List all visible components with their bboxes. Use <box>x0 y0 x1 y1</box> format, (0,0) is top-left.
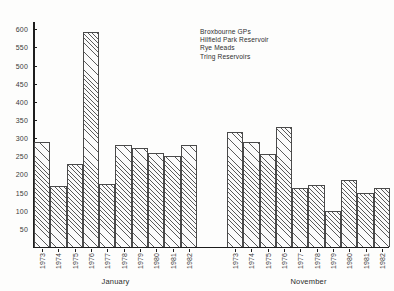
x-axis-tick-mark <box>268 249 269 252</box>
x-axis-tick-label: 1974 <box>248 253 255 269</box>
x-axis-tick-label: 1975 <box>71 253 78 269</box>
y-axis-tick-label: 50 <box>0 226 28 233</box>
bar <box>325 211 341 247</box>
panel-label-january: January <box>34 278 197 286</box>
legend-item-3: Tring Reservoirs <box>200 53 269 61</box>
x-axis-tick-label: 1982 <box>378 253 385 269</box>
bar <box>276 127 292 247</box>
x-axis-tick-label: 1976 <box>281 253 288 269</box>
y-axis-tick-label: 200 <box>0 171 28 178</box>
y-axis-tick-label: 150 <box>0 190 28 197</box>
legend-item-1: Hilfield Park Reservoir <box>200 36 269 44</box>
bar <box>99 184 115 248</box>
x-axis-line <box>33 247 389 248</box>
x-axis-tick-mark <box>251 249 252 252</box>
x-axis-tick-mark <box>107 249 108 252</box>
legend-item-0: Broxbourne GPs <box>200 28 269 36</box>
x-axis-tick-label: 1977 <box>104 253 111 269</box>
x-axis-tick-mark <box>333 249 334 252</box>
y-axis-tick-label: 400 <box>0 99 28 106</box>
chart-legend: Broxbourne GPs Hilfield Park Reservoir R… <box>200 28 269 61</box>
x-axis-tick-mark <box>124 249 125 252</box>
y-axis-tick-label: 350 <box>0 117 28 124</box>
x-axis-tick-mark <box>58 249 59 252</box>
x-axis-tick-label: 1975 <box>264 253 271 269</box>
x-axis-tick-mark <box>300 249 301 252</box>
x-axis-tick-mark <box>173 249 174 252</box>
bar <box>148 153 164 247</box>
bar <box>292 188 308 247</box>
x-axis-tick-mark <box>156 249 157 252</box>
bar <box>181 145 197 247</box>
x-axis-tick-label: 1973 <box>232 253 239 269</box>
x-axis-tick-mark <box>140 249 141 252</box>
panel-label-november: November <box>227 278 390 286</box>
x-axis-tick-label: 1979 <box>329 253 336 269</box>
bar <box>227 132 243 247</box>
x-axis-tick-mark <box>91 249 92 252</box>
legend-item-2: Rye Meads <box>200 44 269 52</box>
x-axis-tick-mark <box>366 249 367 252</box>
x-axis-tick-mark <box>349 249 350 252</box>
x-axis-tick-mark <box>382 249 383 252</box>
y-axis-tick-label: 500 <box>0 63 28 70</box>
y-axis-tick-label: 550 <box>0 44 28 51</box>
bar <box>67 164 83 247</box>
bar <box>374 188 390 247</box>
x-axis-tick-label: 1973 <box>39 253 46 269</box>
x-axis-tick-mark <box>317 249 318 252</box>
bar <box>132 148 148 247</box>
x-axis-tick-label: 1976 <box>88 253 95 269</box>
chart-panel-january <box>34 22 197 247</box>
x-axis-tick-mark <box>42 249 43 252</box>
y-axis-tick-label: 300 <box>0 135 28 142</box>
bar <box>308 185 324 247</box>
y-axis-tick-label: 600 <box>0 26 28 33</box>
x-axis-tick-label: 1980 <box>346 253 353 269</box>
x-axis-tick-label: 1977 <box>297 253 304 269</box>
x-axis-tick-mark <box>235 249 236 252</box>
x-axis-tick-label: 1978 <box>120 253 127 269</box>
bar <box>83 32 99 247</box>
x-axis-tick-label: 1980 <box>153 253 160 269</box>
bar <box>341 180 357 247</box>
bar <box>357 193 373 247</box>
x-axis-tick-mark <box>189 249 190 252</box>
x-axis-tick-label: 1979 <box>136 253 143 269</box>
x-axis-tick-label: 1981 <box>362 253 369 269</box>
bar <box>164 156 180 247</box>
bar <box>50 186 66 247</box>
bar <box>115 145 131 247</box>
bar-group <box>34 22 197 247</box>
chart-figure: 50100150200250300350400450500550600 1973… <box>0 0 394 291</box>
x-axis-tick-label: 1974 <box>55 253 62 269</box>
y-axis-tick-label: 250 <box>0 153 28 160</box>
x-axis-tick-label: 1982 <box>185 253 192 269</box>
bar <box>243 142 259 247</box>
bar <box>260 154 276 247</box>
x-axis-tick-mark <box>284 249 285 252</box>
bar <box>34 142 50 247</box>
y-axis-tick-label: 100 <box>0 208 28 215</box>
x-axis-tick-label: 1978 <box>313 253 320 269</box>
x-axis-tick-label: 1981 <box>169 253 176 269</box>
y-axis-tick-label: 450 <box>0 81 28 88</box>
x-axis-tick-mark <box>75 249 76 252</box>
